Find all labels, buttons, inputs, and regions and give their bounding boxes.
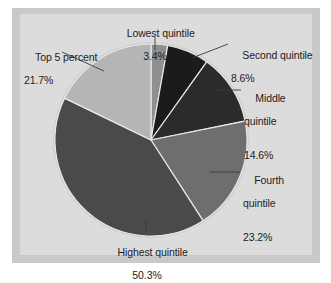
slice-label-highest: Highest quintile 50.3% [92, 235, 202, 283]
slice-label-highest-name: Highest quintile [118, 246, 188, 258]
slice-label-fourth-value: 23.2% [243, 232, 284, 244]
slice-label-highest-value: 50.3% [92, 270, 202, 282]
leader-line-second [192, 44, 228, 58]
slice-label-top5-value: 21.7% [24, 75, 97, 87]
slice-label-lowest: Lowest quintile 3.4% [115, 16, 195, 85]
slice-label-top5: Top 5 percent 21.7% [24, 40, 97, 109]
slice-label-middle-value: 14.6% [244, 150, 286, 162]
slice-label-fourth-name: Fourth [254, 174, 284, 186]
slice-label-top5-name: Top 5 percent [35, 51, 97, 63]
slice-label-fourth-name2: quintile [243, 198, 284, 210]
slice-label-lowest-value: 3.4% [115, 51, 195, 63]
slice-label-middle-name2: quintile [244, 116, 286, 128]
slice-label-middle-name: Middle [255, 92, 285, 104]
slice-label-second-name: Second quintile [242, 49, 312, 61]
slice-label-lowest-name: Lowest quintile [127, 27, 195, 39]
slice-label-fourth: Fourth quintile 23.2% [243, 163, 284, 267]
